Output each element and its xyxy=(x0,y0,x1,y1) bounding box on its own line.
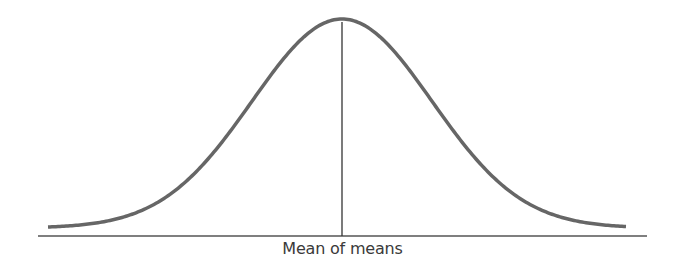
normal-curve xyxy=(48,19,626,227)
x-axis-label: Mean of means xyxy=(0,239,685,258)
bell-curve-chart xyxy=(0,0,685,279)
